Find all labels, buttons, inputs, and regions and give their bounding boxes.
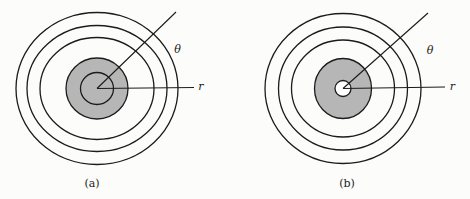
figure: θr(a)θr(b) [0,0,470,199]
caption-a: (a) [84,177,99,190]
theta-label: θ [174,43,181,56]
r-label: r [198,80,204,93]
theta-label: θ [427,44,434,57]
polar-coordinates-figure: θr(a)θr(b) [0,0,470,199]
r-label: r [450,80,456,93]
caption-b: (b) [339,177,355,190]
